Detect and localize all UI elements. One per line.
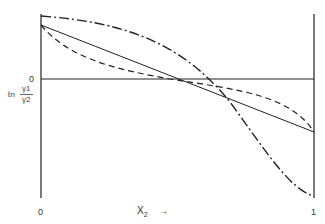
- x-tick-end: 1: [311, 207, 316, 217]
- x-axis-label: X2 →: [137, 205, 168, 218]
- xlabel-arrow: →: [158, 205, 168, 216]
- ylabel-fraction: γ1 γ2: [20, 84, 32, 105]
- xlabel-main: X: [137, 205, 144, 216]
- ylabel-denominator: γ2: [22, 95, 30, 105]
- y-axis-label: ℓn γ1 γ2: [8, 84, 33, 105]
- xlabel-sub: 2: [144, 211, 148, 218]
- chart-canvas: [0, 0, 325, 224]
- x-tick-start: 0: [38, 207, 43, 217]
- ylabel-ln: ℓn: [8, 90, 15, 99]
- y-tick-zero: 0: [29, 74, 34, 84]
- ylabel-numerator: γ1: [20, 84, 32, 95]
- series-dash-dot: [41, 16, 314, 196]
